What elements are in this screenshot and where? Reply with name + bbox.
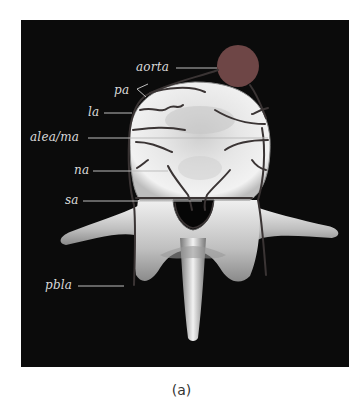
label-pbla: pbla xyxy=(45,279,72,291)
spinous-process xyxy=(160,238,226,341)
label-alea-ma: alea/ma xyxy=(30,131,79,143)
leader-pa-1 xyxy=(137,84,148,89)
vertebra-artery-figure: aorta pa la alea/ma na sa pbla (a) xyxy=(0,0,363,413)
label-aorta: aorta xyxy=(136,61,169,73)
leader-pa-2 xyxy=(137,89,146,97)
label-pa: pa xyxy=(114,84,129,96)
vertebra-illustration xyxy=(0,0,363,413)
aorta xyxy=(217,45,259,87)
label-la: la xyxy=(88,106,99,118)
label-na: na xyxy=(74,164,89,176)
figure-caption: (a) xyxy=(0,382,363,398)
label-sa: sa xyxy=(65,194,79,206)
